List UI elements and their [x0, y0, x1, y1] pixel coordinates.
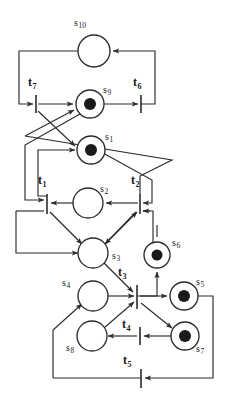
arc-t1-s1: [38, 150, 75, 196]
transition-label-t7: t7: [28, 76, 37, 91]
place-s2[interactable]: [73, 188, 103, 218]
place-label-s7: s7: [196, 344, 204, 356]
token-s5: [178, 290, 190, 302]
transition-label-t2: t2: [131, 174, 140, 189]
transition-label-t1: t1: [38, 174, 47, 189]
arc-t3-s6: [137, 290, 157, 296]
place-label-s9: s9: [103, 85, 111, 97]
arc-t1-s3: [50, 212, 82, 244]
place-label-s3: s3: [112, 251, 120, 263]
place-s3[interactable]: [78, 238, 108, 268]
place-label-s2: s2: [100, 184, 108, 196]
place-label-s6: s6: [172, 238, 180, 250]
arc-s1-t2: [103, 153, 152, 203]
arc-s3-t1: [16, 211, 78, 253]
transition-label-t3: t3: [118, 266, 127, 281]
token-s1: [85, 144, 97, 156]
transition-label-t4: t4: [122, 318, 131, 333]
arc-t2-s9: [25, 110, 74, 136]
token-s7: [179, 330, 191, 342]
petri-net-diagram: s10 s9 s1 s2 s3 s6 s4 s5 s8 s7 t7 t6 t1 …: [0, 0, 229, 400]
place-label-s1: s1: [105, 132, 113, 144]
place-label-s8: s8: [66, 343, 74, 355]
token-s9: [84, 98, 96, 110]
petri-net-canvas: [0, 0, 229, 400]
arc-s3-t2: [104, 212, 137, 245]
arc-s8-s4: [53, 304, 82, 330]
place-label-s5: s5: [196, 277, 204, 289]
transition-label-t6: t6: [133, 76, 142, 91]
transition-label-t5: t5: [123, 354, 132, 369]
place-s4[interactable]: [78, 281, 108, 311]
place-s8[interactable]: [77, 321, 107, 351]
place-label-s10: s10: [74, 18, 86, 30]
place-s10[interactable]: [78, 35, 110, 67]
arc-t3-s7: [141, 303, 172, 328]
token-s6: [152, 250, 163, 261]
place-label-s4: s4: [62, 278, 70, 290]
arc-s9-t1: [25, 114, 80, 200]
